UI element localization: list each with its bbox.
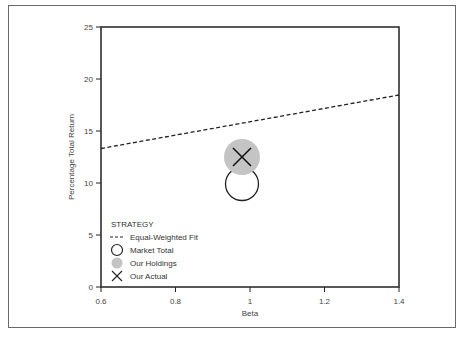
y-tick-25: 25 bbox=[84, 23, 93, 32]
x-axis-title: Beta bbox=[242, 309, 259, 318]
legend-label-market-total: Market Total bbox=[130, 246, 174, 255]
legend-title: STRATEGY bbox=[111, 220, 154, 229]
x-tick-1: 1 bbox=[248, 297, 253, 306]
y-tick-20: 20 bbox=[84, 75, 93, 84]
y-tick-15: 15 bbox=[84, 127, 93, 136]
open-circle-icon bbox=[112, 245, 123, 256]
x-axis: 0.6 0.8 1 1.2 1.4 Beta bbox=[95, 287, 405, 318]
gray-circle-icon bbox=[112, 258, 123, 269]
y-axis-title: Percentage Total Return bbox=[67, 114, 76, 200]
legend-label-our-holdings: Our Holdings bbox=[130, 259, 177, 268]
y-axis: 0 5 10 15 20 25 Percentage Total Return bbox=[67, 23, 101, 292]
chart-svg: 0 5 10 15 20 25 Percentage Total Return … bbox=[0, 0, 466, 342]
x-tick-0.6: 0.6 bbox=[95, 297, 107, 306]
x-mark-icon bbox=[112, 271, 122, 281]
legend-label-our-actual: Our Actual bbox=[130, 272, 168, 281]
x-tick-1.4: 1.4 bbox=[393, 297, 405, 306]
x-tick-1.2: 1.2 bbox=[319, 297, 331, 306]
legend: STRATEGY Equal-Weighted Fit Market Total… bbox=[110, 220, 199, 281]
y-tick-10: 10 bbox=[84, 179, 93, 188]
y-tick-0: 0 bbox=[89, 283, 94, 292]
legend-label-fit: Equal-Weighted Fit bbox=[130, 233, 199, 242]
y-tick-5: 5 bbox=[89, 231, 94, 240]
equal-weighted-fit-line bbox=[101, 95, 399, 149]
x-tick-0.8: 0.8 bbox=[170, 297, 182, 306]
